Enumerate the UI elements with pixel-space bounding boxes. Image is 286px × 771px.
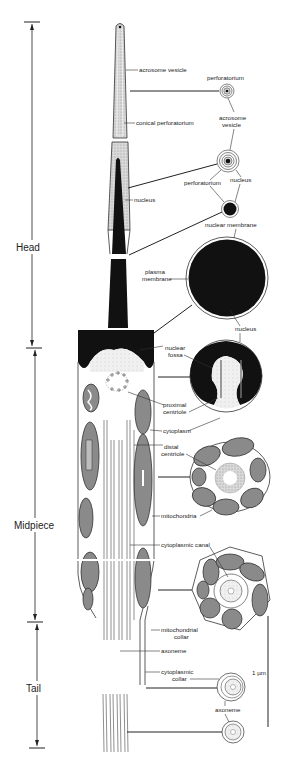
label-distal-centriole-1: distal [164, 443, 178, 450]
label-cytoplasmic-canal: cytoplasmic canal [161, 541, 210, 548]
cross-section-nucleus-large [186, 237, 268, 319]
label-nuclear-fossa-2: fossa [168, 351, 183, 358]
region-label-midpiece: Midpiece [14, 520, 54, 531]
label-nucleus-large: nucleus [235, 325, 256, 332]
cross-section-nucleus-tip [217, 150, 239, 172]
label-acrosome-vesicle-xs-1: acrosome [219, 114, 247, 121]
label-nucleus-head: nucleus [134, 196, 155, 203]
sperm-ultrastructure-diagram: Head Midpiece Tail [0, 0, 286, 771]
label-cytoplasm: cytoplasm [163, 427, 191, 434]
label-perforatorium-xs2: perforatorium [184, 179, 221, 186]
label-acrosome-vesicle-xs-2: vesicle [222, 121, 241, 128]
label-cytoplasmic-collar-2: collar [172, 675, 187, 682]
label-mitochondrial-collar-1: mitochondrial [161, 626, 198, 633]
cross-section-acrosome [220, 84, 234, 98]
label-axoneme: axoneme [161, 647, 187, 654]
label-cytoplasmic-collar-1: cytoplasmic [161, 668, 193, 675]
label-axoneme-xs: axoneme [215, 706, 241, 713]
label-acrosome-vesicle: acrosome vesicle [139, 66, 187, 73]
label-nuclear-membrane: nuclear membrane [205, 221, 257, 228]
label-conical-perforatorium: conical perforatorium [136, 119, 194, 126]
cross-section-mitochondrial-collar [192, 547, 270, 630]
label-proximal-centriole-1: proximal [163, 401, 186, 408]
label-plasma-membrane-1: plasma [145, 268, 166, 275]
label-nuclear-fossa-1: nuclear [165, 344, 185, 351]
label-distal-centriole-2: centriole [161, 450, 185, 457]
cross-section-axoneme [222, 721, 244, 743]
longitudinal-tail [90, 690, 170, 752]
region-label-head: Head [16, 242, 40, 253]
label-perforatorium-xs1: perforatorium [207, 74, 244, 81]
label-plasma-membrane-2: membrane [142, 275, 172, 282]
axoneme-fibers [104, 420, 134, 640]
proximal-centriole-ring [106, 372, 128, 391]
scale-bar-label: 1 µm [252, 669, 266, 676]
cross-section-cytoplasmic-collar [217, 673, 245, 701]
cross-section-nucleus-small [222, 201, 239, 218]
cross-section-distal-centriole [190, 435, 270, 515]
region-label-tail: Tail [26, 683, 41, 694]
label-mitochondria: mitochondria [161, 512, 197, 519]
cross-section-nuclear-fossa [190, 340, 262, 412]
region-dimension-lines [24, 22, 45, 748]
label-nucleus-xs: nucleus [230, 176, 251, 183]
label-mitochondrial-collar-2: collar [174, 633, 189, 640]
longitudinal-midpiece [60, 349, 170, 686]
label-proximal-centriole-2: centriole [163, 408, 187, 415]
